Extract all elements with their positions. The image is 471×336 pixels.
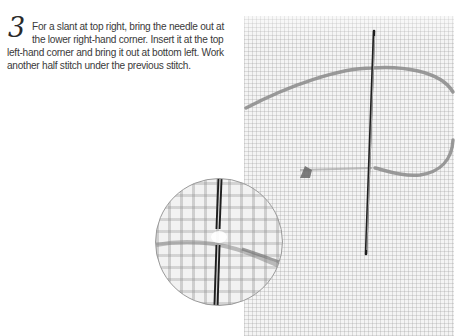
thread-arc	[246, 68, 453, 108]
thread-tail	[375, 140, 453, 175]
magnified-inset	[155, 178, 283, 306]
magnified-stitch	[156, 179, 282, 305]
thread-knot	[300, 166, 312, 178]
needle	[366, 31, 374, 254]
